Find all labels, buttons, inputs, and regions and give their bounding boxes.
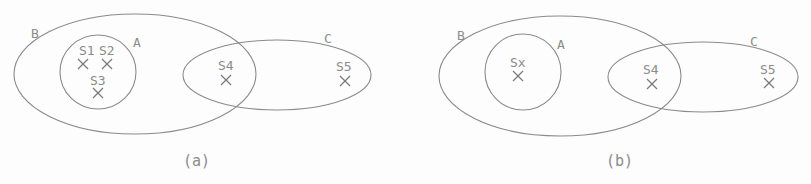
- cross-mark-icon: [102, 59, 112, 69]
- point-s1: S1: [78, 43, 95, 69]
- point-label: S5: [336, 59, 352, 74]
- cross-mark-icon: [78, 59, 88, 69]
- cross-mark-icon: [647, 79, 657, 89]
- set-c-ellipse: [608, 42, 798, 112]
- set-b-ellipse: [14, 14, 256, 134]
- set-a-label: A: [133, 35, 141, 50]
- point-label: S4: [218, 58, 234, 73]
- set-b-label: B: [31, 26, 39, 41]
- point-s5: S5: [760, 62, 776, 88]
- point-s4: S4: [218, 58, 234, 85]
- point-label: Sx: [510, 55, 526, 70]
- point-sx: Sx: [510, 55, 526, 81]
- set-b-label: B: [457, 28, 465, 43]
- set-c-label: C: [750, 34, 758, 49]
- set-a-circle: [485, 34, 561, 110]
- set-c-ellipse: [183, 40, 371, 110]
- point-label: S4: [643, 62, 659, 77]
- point-label: S2: [99, 43, 115, 58]
- caption-a: (a): [183, 152, 210, 170]
- cross-mark-icon: [340, 76, 350, 86]
- panel-b: B A C Sx S4 S5 (b): [439, 16, 798, 170]
- set-a-circle: [60, 35, 136, 109]
- point-s5: S5: [336, 59, 352, 86]
- cross-mark-icon: [221, 75, 231, 85]
- point-label: S5: [760, 62, 776, 77]
- cross-mark-icon: [513, 71, 523, 81]
- point-s4: S4: [643, 62, 659, 89]
- cross-mark-icon: [764, 78, 774, 88]
- point-label: S1: [79, 43, 95, 58]
- panel-a: B A C S1 S2 S3 S4 S5 (a): [14, 14, 371, 170]
- caption-b: (b): [606, 152, 633, 170]
- set-a-label: A: [557, 37, 565, 52]
- point-s2: S2: [99, 43, 115, 69]
- venn-diagram: B A C S1 S2 S3 S4 S5 (a) B A C: [0, 0, 811, 184]
- cross-mark-icon: [93, 88, 103, 98]
- point-s3: S3: [90, 73, 106, 98]
- point-label: S3: [90, 73, 106, 88]
- set-c-label: C: [324, 31, 332, 46]
